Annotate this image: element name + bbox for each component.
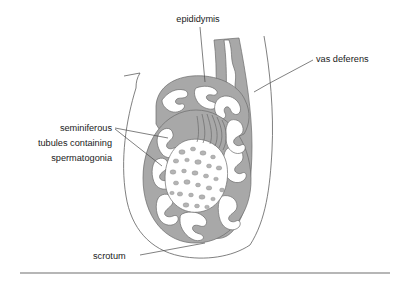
label-epididymis: epididymis	[176, 14, 220, 24]
scrotum-leader	[140, 243, 205, 255]
label-scrotum: scrotum	[93, 251, 126, 261]
epididymis-leader	[200, 27, 205, 82]
testis-diagram: epididymis vas deferens seminiferous tub…	[0, 0, 406, 284]
label-seminiferous-line-2: tubules containing	[38, 138, 112, 148]
scrotum-top-hook	[124, 73, 140, 88]
testis-body	[143, 110, 251, 243]
anatomy-figure: epididymis vas deferens seminiferous tub…	[0, 0, 406, 284]
scrotum-sac-right	[250, 36, 273, 245]
label-seminiferous-line-1: seminiferous	[60, 123, 112, 133]
label-vas-deferens: vas deferens	[316, 54, 369, 64]
vas-deferens-leader	[268, 60, 313, 84]
vas-deferens-leader-tick	[254, 84, 268, 92]
testis-central-cavity	[165, 139, 228, 212]
label-seminiferous-line-3: spermatogonia	[51, 153, 113, 163]
